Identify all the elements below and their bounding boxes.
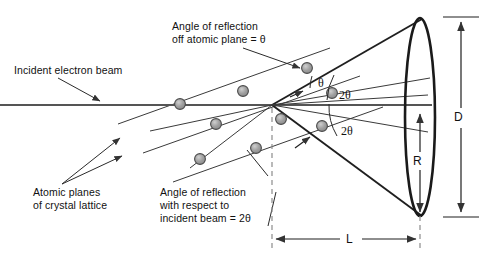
atomic-plane-lines bbox=[118, 48, 383, 182]
angle-wrt-beam-label-line3: incident beam = 2θ bbox=[160, 212, 251, 225]
atom bbox=[302, 63, 313, 74]
two-theta-lower-arc bbox=[329, 104, 337, 136]
two-theta-lower-label: 2θ bbox=[341, 124, 353, 139]
incident-beam-leader bbox=[58, 78, 100, 101]
atomic-planes-label-line2: of crystal lattice bbox=[33, 199, 107, 212]
two-theta-lower-ray-arrow bbox=[295, 137, 310, 148]
atom bbox=[251, 143, 262, 154]
radius-label: R bbox=[413, 154, 422, 168]
cone-edge-lower bbox=[272, 105, 422, 216]
atomic-planes-label-line1: Atomic planes bbox=[33, 186, 100, 199]
atom bbox=[238, 86, 249, 97]
angle-wrt-beam-label-line2: with respect to bbox=[160, 199, 229, 212]
lattice-atoms bbox=[175, 63, 338, 165]
diameter-label: D bbox=[454, 110, 463, 124]
angle-wrt-beam-leader bbox=[247, 150, 268, 176]
atomic-plane-line-1 bbox=[118, 48, 330, 124]
angle-off-plane-label-line2: off atomic plane = θ bbox=[172, 33, 266, 46]
atom bbox=[211, 119, 222, 130]
atom bbox=[276, 114, 287, 125]
atom bbox=[317, 121, 328, 132]
angle-off-plane-label-line1: Angle of reflection bbox=[172, 20, 258, 33]
diffraction-diagram: Incident electron beam Angle of reflecti… bbox=[0, 0, 487, 264]
length-label: L bbox=[346, 232, 353, 246]
theta-angle-label: θ bbox=[318, 76, 324, 91]
angle-off-plane-leader bbox=[243, 48, 300, 68]
atom bbox=[175, 99, 186, 110]
incident-beam-label: Incident electron beam bbox=[14, 64, 122, 77]
atom bbox=[195, 154, 206, 165]
two-theta-upper-label: 2θ bbox=[339, 88, 351, 103]
angle-wrt-beam-label-line1: Angle of reflection bbox=[160, 186, 246, 199]
